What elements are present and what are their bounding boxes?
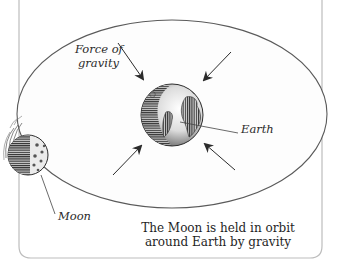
earth-globe-icon — [141, 84, 203, 146]
moon-label: Moon — [57, 209, 91, 223]
force-of-gravity-label-line2: gravity — [78, 56, 120, 70]
orbit-diagram: Force of gravity Earth Moon The Moon is … — [0, 0, 342, 267]
force-of-gravity-label-line1: Force of — [74, 42, 125, 56]
moon-leader-line — [41, 175, 55, 214]
caption-line-2: around Earth by gravity — [145, 235, 291, 249]
earth-label: Earth — [240, 122, 274, 136]
caption-line-1: The Moon is held in orbit — [141, 221, 295, 235]
